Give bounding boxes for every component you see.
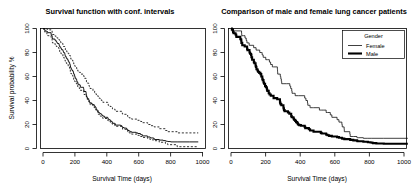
panel-title: Survival function with conf. intervals (46, 7, 175, 16)
x-tick-label-1000: 1000 (196, 158, 210, 165)
y-tick-label-60: 60 (23, 73, 30, 80)
legend-title: Gender (364, 33, 383, 39)
x-tick-label-400: 400 (295, 158, 306, 165)
x-tick-label-1000: 1000 (397, 158, 411, 165)
y-tick-label-0: 0 (23, 146, 30, 150)
y-axis: 0 20 40 60 80 100 (211, 23, 225, 150)
panel-gender-comparison: Comparison of male and female lung cance… (209, 0, 419, 188)
y-tick-label-60: 60 (211, 73, 218, 80)
survival-curve (43, 29, 198, 142)
x-tick-label-0: 0 (229, 158, 233, 165)
y-axis: 0 20 40 60 80 100 (23, 23, 37, 150)
gender-comparison-svg: Comparison of male and female lung cance… (209, 0, 419, 188)
y-tick-label-100: 100 (211, 23, 218, 34)
x-tick-label-600: 600 (330, 158, 341, 165)
panel-survival-ci: Survival function with conf. intervals 0… (0, 0, 210, 188)
x-tick-label-400: 400 (102, 158, 113, 165)
figure-root: Survival function with conf. intervals 0… (0, 0, 419, 188)
legend[interactable]: Gender Female Male (343, 31, 405, 59)
legend-label-female[interactable]: Female (366, 43, 385, 49)
x-axis: 0 200 400 600 800 1000 (41, 153, 210, 166)
legend-label-male[interactable]: Male (366, 51, 378, 57)
x-axis: 0 200 400 600 800 1000 (229, 153, 411, 166)
y-tick-label-0: 0 (211, 146, 218, 150)
survival-ci-svg: Survival function with conf. intervals 0… (0, 0, 210, 188)
x-tick-label-0: 0 (41, 158, 45, 165)
x-tick-label-200: 200 (70, 158, 81, 165)
y-tick-label-20: 20 (23, 121, 30, 128)
x-tick-label-200: 200 (260, 158, 271, 165)
y-tick-label-80: 80 (23, 49, 30, 56)
curves-left (43, 29, 198, 147)
upper-ci-curve (43, 29, 198, 133)
x-axis-title: Survival Time (days) (92, 175, 152, 183)
panel-title: Comparison of male and female lung cance… (221, 7, 407, 16)
y-tick-label-40: 40 (211, 97, 218, 104)
y-tick-label-100: 100 (23, 23, 30, 34)
y-tick-label-80: 80 (211, 49, 218, 56)
x-tick-label-600: 600 (134, 158, 145, 165)
x-tick-label-800: 800 (364, 158, 375, 165)
y-axis-title: Survival probability % (8, 56, 16, 119)
y-tick-label-40: 40 (23, 97, 30, 104)
y-tick-label-20: 20 (211, 121, 218, 128)
lower-ci-curve (43, 29, 198, 147)
x-axis-title: Survival Time (days) (287, 175, 347, 183)
x-tick-label-800: 800 (165, 158, 176, 165)
